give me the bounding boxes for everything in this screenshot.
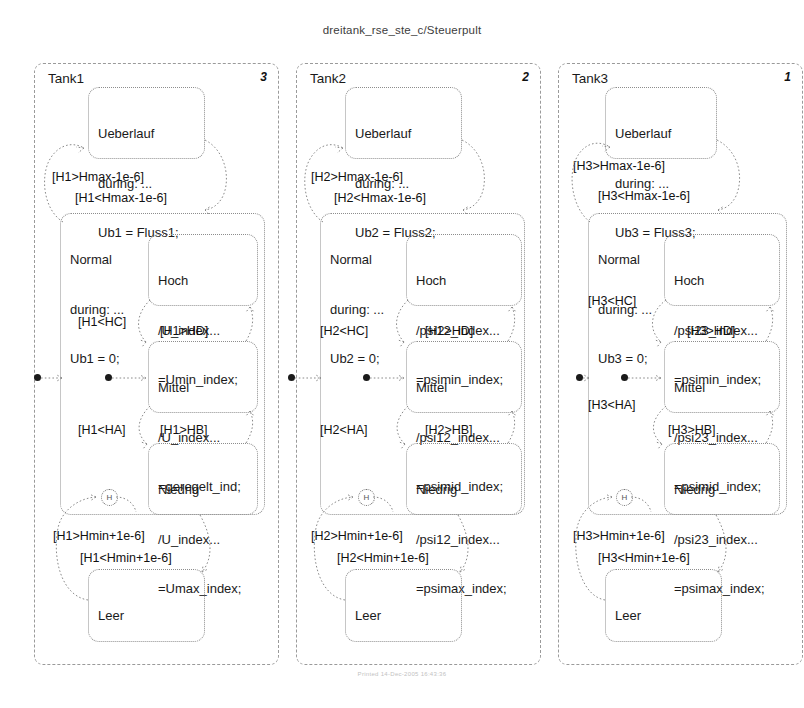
- tank3-label-to-ueberlauf: [H3>Hmax-1e-6]: [573, 159, 665, 173]
- tank1-label-to-ueberlauf: [H1>Hmax-1e-6]: [52, 170, 144, 184]
- tank1-label-hoch-to-mittel: [H1<HC]: [78, 315, 126, 329]
- tank3-label-from-ueberlauf: [H3<Hmax-1e-6]: [598, 189, 690, 203]
- page-title: dreitank_rse_ste_c/Steuerpult: [0, 24, 804, 36]
- tank1-label-mittel-to-niedrig: [H1<HA]: [78, 423, 126, 437]
- tank2-default-transition-dot: [288, 374, 295, 381]
- tank2-normal-during: during: ...: [330, 302, 412, 319]
- tank1-state-hoch[interactable]: Hoch /U_index... =Umin_index;: [148, 234, 258, 306]
- tank2-normal-name: Normal: [330, 252, 412, 269]
- tank2-label-from-ueberlauf: [H2<Hmax-1e-6]: [334, 191, 426, 205]
- tank2-normal-action: Ub2 = 0;: [330, 351, 412, 368]
- tank3-state-mittel[interactable]: Mittel /psi23_index... =psimid_index;: [664, 341, 780, 413]
- tank1-state-ueberlauf[interactable]: Ueberlauf during: ... Ub1 = Fluss1;: [88, 87, 205, 159]
- tank3-label-hoch-to-mittel: [H3<HC]: [588, 294, 636, 308]
- tank3-label-niedrig-to-mittel: [H3>HB]: [668, 423, 716, 437]
- tank2-state-mittel[interactable]: Mittel /psi12_index... =psimid_index;: [406, 341, 522, 413]
- tank2-state-leer[interactable]: Leer: [345, 569, 462, 642]
- tank2-label-mittel-to-niedrig: [H2<HA]: [320, 423, 368, 437]
- tank2-label-to-ueberlauf: [H2>Hmax-1e-6]: [311, 170, 403, 184]
- tank3-state-leer[interactable]: Leer: [605, 569, 722, 642]
- tank3-ueberlauf-name: Ueberlauf: [615, 126, 712, 143]
- tank2-state-niedrig[interactable]: Niedrig /psi12_index... =psimax_index;: [406, 443, 522, 515]
- tank1-state-mittel[interactable]: Mittel /U_index... =geregelt_ind;: [148, 341, 258, 413]
- tank1-niedrig-line1: /U_index...: [158, 532, 253, 549]
- tank3-history-junction[interactable]: [616, 489, 633, 506]
- tank3-execution-order: 1: [784, 70, 791, 84]
- tank2-hoch-name: Hoch: [416, 273, 517, 290]
- tank3-leer-text: Leer: [615, 575, 717, 658]
- tank2-normal-default-transition-dot: [363, 374, 370, 381]
- tank2-mittel-name: Mittel: [416, 380, 517, 397]
- tank2-label-niedrig-to-mittel: [H2>HB]: [425, 423, 473, 437]
- tank3-state-niedrig[interactable]: Niedrig /psi23_index... =psimax_index;: [664, 443, 780, 515]
- tank3-state-ueberlauf[interactable]: Ueberlauf during: ... Ub3 = Fluss3;: [605, 87, 717, 159]
- tank1-state-leer[interactable]: Leer: [88, 569, 205, 642]
- tank3-normal-default-transition-dot: [621, 374, 628, 381]
- tank3-label-mittel-to-hoch: [H3>HD]: [687, 324, 735, 338]
- tank2-label-hoch-to-mittel: [H2<HC]: [320, 324, 368, 338]
- tank1-ueberlauf-name: Ueberlauf: [98, 126, 200, 143]
- tank2-state-ueberlauf[interactable]: Ueberlauf during: ... Ub2 = Fluss2;: [345, 87, 462, 159]
- tank3-default-transition-dot: [576, 374, 583, 381]
- tank3-label-mittel-to-niedrig: [H3<HA]: [588, 398, 636, 412]
- tank1-leer-text: Leer: [98, 575, 200, 658]
- tank1-label: Tank1: [48, 71, 84, 86]
- tank2-execution-order: 2: [522, 70, 529, 84]
- tank2-ueberlauf-name: Ueberlauf: [355, 126, 457, 143]
- stateflow-canvas: dreitank_rse_ste_c/Steuerpult Tank1 3 Ue…: [0, 0, 804, 708]
- tank3-niedrig-line1: /psi23_index...: [674, 532, 775, 549]
- tank1-hoch-name: Hoch: [158, 273, 253, 290]
- tank1-normal-text: Normal during: ... Ub1 = 0;: [70, 219, 152, 401]
- tank2-history-junction[interactable]: [358, 489, 375, 506]
- tank2-label-from-leer: [H2>Hmin+1e-6]: [311, 529, 403, 543]
- tank3-leer-name: Leer: [615, 608, 717, 625]
- print-timestamp: Printed 14-Dec-2005 16:43:36: [0, 671, 804, 677]
- tank1-execution-order: 3: [260, 70, 267, 84]
- tank1-normal-action: Ub1 = 0;: [70, 351, 152, 368]
- tank3-label: Tank3: [572, 71, 608, 86]
- tank1-mittel-name: Mittel: [158, 380, 253, 397]
- tank1-default-transition-dot: [34, 374, 41, 381]
- tank2-niedrig-line1: /psi12_index...: [416, 532, 517, 549]
- tank3-state-hoch[interactable]: Hoch /psi23_index... =psimin_index;: [664, 234, 780, 306]
- tank1-label-from-ueberlauf: [H1<Hmax-1e-6]: [75, 191, 167, 205]
- tank1-normal-name: Normal: [70, 252, 152, 269]
- tank2-niedrig-name: Niedrig: [416, 482, 517, 499]
- tank1-niedrig-name: Niedrig: [158, 482, 253, 499]
- tank2-state-hoch[interactable]: Hoch /psi12_index... =psimin_index;: [406, 234, 522, 306]
- tank1-state-niedrig[interactable]: Niedrig /U_index... =Umax_index;: [148, 443, 258, 515]
- tank2-label-mittel-to-hoch: [H2>HD]: [425, 324, 473, 338]
- tank2-leer-text: Leer: [355, 575, 457, 658]
- tank1-label-to-leer: [H1<Hmin+1e-6]: [80, 551, 172, 565]
- tank3-mittel-name: Mittel: [674, 380, 775, 397]
- tank3-niedrig-name: Niedrig: [674, 482, 775, 499]
- tank1-history-junction[interactable]: [101, 489, 118, 506]
- tank1-label-niedrig-to-mittel: [H1>HB]: [160, 423, 208, 437]
- tank2-label: Tank2: [310, 71, 346, 86]
- tank2-normal-text: Normal during: ... Ub2 = 0;: [330, 219, 412, 401]
- tank1-normal-default-transition-dot: [105, 374, 112, 381]
- tank2-leer-name: Leer: [355, 608, 457, 625]
- tank3-label-from-leer: [H3>Hmin+1e-6]: [573, 529, 665, 543]
- tank3-label-to-leer: [H3<Hmin+1e-6]: [598, 551, 690, 565]
- tank1-label-from-leer: [H1>Hmin+1e-6]: [53, 529, 145, 543]
- tank2-label-to-leer: [H2<Hmin+1e-6]: [337, 551, 429, 565]
- tank3-hoch-name: Hoch: [674, 273, 775, 290]
- tank1-label-mittel-to-hoch: [H1>HD]: [160, 324, 208, 338]
- tank1-leer-name: Leer: [98, 608, 200, 625]
